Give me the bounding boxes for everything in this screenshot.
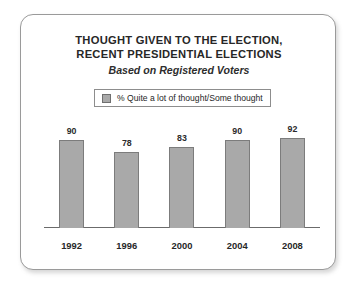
bar-slot: 90 [210,115,265,228]
chart-legend: % Quite a lot of thought/Some thought [94,89,271,107]
chart-subtitle: Based on Registered Voters [21,64,337,77]
bar-value-label: 83 [154,133,209,143]
x-tick-2008: 2008 [265,240,320,251]
x-tick-1992: 1992 [44,240,99,251]
bar-slot: 92 [265,115,320,228]
legend-swatch-icon [102,94,111,103]
chart-title-block: THOUGHT GIVEN TO THE ELECTION, RECENT PR… [21,34,337,77]
bar-value-label: 90 [210,126,265,136]
bar-slot: 90 [44,115,99,228]
bar-value-label: 78 [99,138,154,148]
chart-title-line-1: THOUGHT GIVEN TO THE ELECTION, [21,34,337,48]
bar-slot: 78 [99,115,154,228]
bar-slot: 83 [154,115,209,228]
chart-title-line-2: RECENT PRESIDENTIAL ELECTIONS [21,48,337,62]
x-tick-2000: 2000 [154,240,209,251]
bar-value-label: 90 [44,126,99,136]
bar-1992[interactable] [59,140,84,228]
bar-value-label: 92 [265,124,320,134]
x-tick-1996: 1996 [99,240,154,251]
chart-card: THOUGHT GIVEN TO THE ELECTION, RECENT PR… [20,14,336,270]
legend-item-label: % Quite a lot of thought/Some thought [117,93,263,103]
chart-figure: THOUGHT GIVEN TO THE ELECTION, RECENT PR… [0,0,354,286]
bar-2008[interactable] [280,138,305,228]
x-tick-2004: 2004 [210,240,265,251]
chart-plot-area: 90 78 83 90 92 1992 1996 2000 2004 [44,115,320,259]
bar-2000[interactable] [169,147,194,228]
bar-2004[interactable] [225,140,250,228]
bar-1996[interactable] [114,152,139,228]
